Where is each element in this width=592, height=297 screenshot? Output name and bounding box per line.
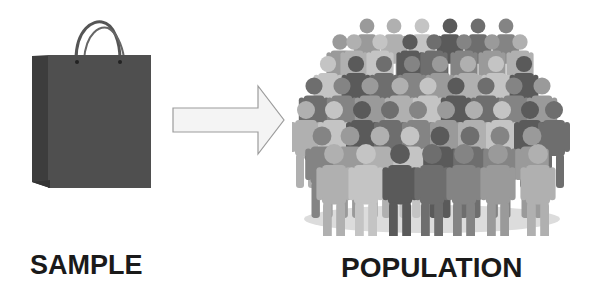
shopping-bag-icon — [24, 18, 159, 196]
sample-label: SAMPLE — [30, 250, 143, 281]
right-arrow-icon — [170, 80, 288, 160]
crowd-of-people-icon — [292, 14, 570, 236]
population-label: POPULATION — [341, 252, 522, 284]
